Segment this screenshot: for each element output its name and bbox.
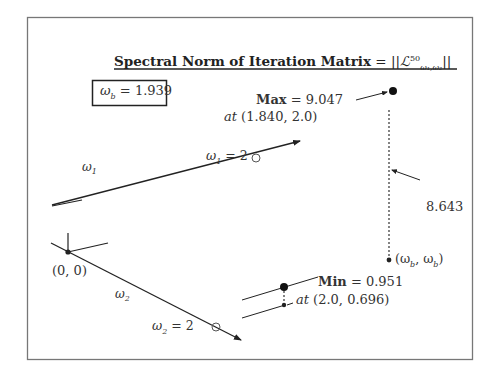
title-equals: = ||	[371, 53, 400, 69]
min-value: = 0.951	[347, 274, 403, 289]
origin-tick-line	[68, 243, 108, 252]
max-coords: (1.840, 2.0)	[237, 109, 317, 124]
diagonal-point-dot	[387, 258, 392, 263]
omega-b-label: ωb = 1.939	[100, 83, 172, 101]
omega2-axis-label: ω2	[115, 287, 130, 303]
origin-label: (0, 0)	[52, 263, 87, 278]
difference-label: 8.643	[426, 199, 463, 214]
max-title: Max	[256, 92, 287, 107]
max-label: Max = 9.047	[256, 92, 343, 107]
min-coords: (2.0, 0.696)	[309, 292, 389, 307]
omega1-equals-2-marker	[252, 154, 260, 162]
omega2-marker-symbol: ω	[152, 318, 162, 333]
omega-b-value: = 1.939	[116, 83, 172, 98]
min-location: at (2.0, 0.696)	[296, 292, 389, 307]
diagram-title: Spectral Norm of Iteration Matrix = ||ℒ5…	[114, 53, 451, 72]
min-lower-line	[242, 305, 285, 318]
omega2-marker-value: = 2	[167, 318, 193, 333]
title-operator-symbol: ℒ	[400, 53, 410, 69]
difference-callout-arrow	[392, 170, 420, 180]
min-lower-dot	[282, 303, 286, 307]
omega2-symbol: ω	[115, 287, 125, 301]
min-point-dot	[280, 283, 288, 291]
diag-open: (ω	[395, 251, 410, 266]
diagram-canvas: Spectral Norm of Iteration Matrix = ||ℒ5…	[0, 0, 495, 381]
max-point-dot	[389, 87, 397, 95]
diag-close: )	[438, 251, 443, 266]
min-at-tick	[287, 303, 293, 305]
max-at-word: at	[224, 109, 237, 124]
omega1-equals-2-label: ω1 = 2	[206, 148, 248, 166]
max-value: = 9.047	[287, 92, 343, 107]
min-label: Min = 0.951	[318, 274, 403, 289]
omega1-marker-symbol: ω	[206, 148, 216, 163]
min-title: Min	[318, 274, 347, 289]
omega2-equals-2-label: ω2 = 2	[152, 318, 194, 336]
title-superscript: 50	[410, 54, 420, 63]
omega1-subscript: 1	[92, 167, 97, 176]
omega2-subscript: 2	[125, 294, 130, 303]
title-subscript: ω₁,ω₂	[420, 63, 442, 72]
diagonal-point-label: (ωb, ωb)	[395, 251, 443, 269]
title-text: Spectral Norm of Iteration Matrix	[114, 53, 371, 69]
origin-dot	[65, 249, 70, 254]
title-close: ||	[442, 53, 451, 69]
diag-mid: , ω	[415, 251, 433, 266]
max-location: at (1.840, 2.0)	[224, 109, 317, 124]
omega1-marker-value: = 2	[221, 148, 247, 163]
min-at-word: at	[296, 292, 309, 307]
omega-symbol: ω	[100, 83, 111, 98]
omega1-axis-label: ω1	[82, 160, 97, 176]
max-callout-arrow	[356, 92, 387, 100]
omega1-symbol: ω	[82, 160, 92, 174]
